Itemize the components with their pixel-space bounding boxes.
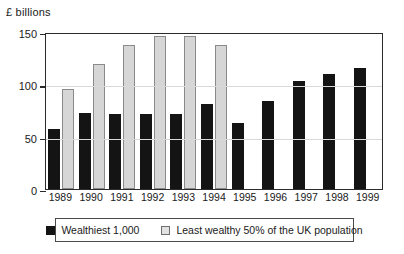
- y-axis-tick-label: 0: [31, 186, 37, 197]
- bar-group: [290, 34, 321, 189]
- x-axis-label: 1990: [76, 192, 107, 203]
- y-axis-tick: [40, 86, 46, 87]
- y-axis-tick-label: 50: [25, 133, 37, 144]
- x-axis-label: 1989: [45, 192, 76, 203]
- x-axis-label: 1997: [291, 192, 322, 203]
- legend-swatch-light-icon: [161, 226, 170, 235]
- bar-wealthiest-1997: [293, 81, 305, 189]
- bar-wealthiest-1998: [323, 74, 335, 189]
- legend-swatch-dark-icon: [46, 226, 55, 235]
- bar-group: [260, 34, 291, 189]
- plot-area: 050100150: [45, 33, 383, 190]
- y-axis-unit-caption: £ billions: [6, 6, 51, 18]
- bar-groups: [46, 34, 382, 189]
- bar-least-wealthy-1993: [184, 36, 196, 189]
- legend-item-least-wealthy: Least wealthy 50% of the UK population: [161, 224, 362, 236]
- x-axis-label: 1999: [352, 192, 383, 203]
- bar-group: [199, 34, 230, 189]
- legend-label-least-wealthy: Least wealthy 50% of the UK population: [176, 224, 362, 236]
- x-axis-label: 1996: [260, 192, 291, 203]
- bar-group: [138, 34, 169, 189]
- bar-wealthiest-1996: [262, 101, 274, 189]
- bar-group: [229, 34, 260, 189]
- legend-label-wealthiest: Wealthiest 1,000: [61, 224, 139, 236]
- gridline: [46, 86, 382, 87]
- bar-wealthiest-1994: [201, 104, 213, 189]
- x-axis-label: 1994: [199, 192, 230, 203]
- y-axis-tick-label: 150: [19, 29, 37, 40]
- x-axis-label: 1991: [106, 192, 137, 203]
- bar-group: [77, 34, 108, 189]
- bar-least-wealthy-1991: [123, 45, 135, 189]
- bar-least-wealthy-1990: [93, 64, 105, 189]
- bar-least-wealthy-1992: [154, 36, 166, 189]
- bar-wealthiest-1992: [140, 114, 152, 189]
- x-axis-label: 1995: [229, 192, 260, 203]
- bar-wealthiest-1993: [170, 114, 182, 189]
- x-axis-label: 1998: [322, 192, 353, 203]
- bar-chart-figure: £ billions 050100150 1989199019911992199…: [0, 0, 404, 254]
- bar-wealthiest-1995: [232, 123, 244, 189]
- bar-least-wealthy-1994: [215, 45, 227, 189]
- chart-legend: Wealthiest 1,000 Least wealthy 50% of th…: [55, 218, 354, 242]
- y-axis-tick-label: 100: [19, 81, 37, 92]
- bar-wealthiest-1990: [79, 113, 91, 189]
- bar-group: [107, 34, 138, 189]
- x-axis-labels: 1989199019911992199319941995199619971998…: [45, 192, 383, 203]
- x-axis-label: 1993: [168, 192, 199, 203]
- bar-group: [46, 34, 77, 189]
- gridline: [46, 139, 382, 140]
- legend-item-wealthiest: Wealthiest 1,000: [46, 224, 139, 236]
- bar-group: [321, 34, 352, 189]
- bar-wealthiest-1991: [109, 114, 121, 189]
- bar-group: [351, 34, 382, 189]
- bar-group: [168, 34, 199, 189]
- y-axis-tick: [40, 139, 46, 140]
- x-axis-label: 1992: [137, 192, 168, 203]
- y-axis-tick: [40, 34, 46, 35]
